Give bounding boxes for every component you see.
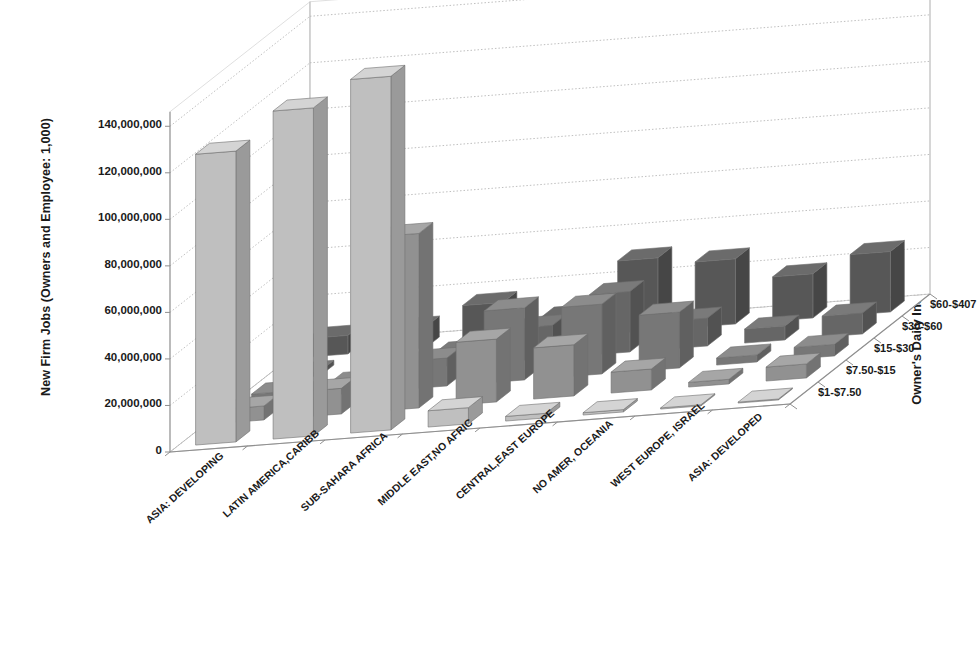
legend-item-3: $30-$60	[902, 320, 942, 332]
y-tick-label: 100,000,000	[2, 211, 162, 223]
legend-item-4: $60-$407	[930, 298, 977, 310]
bar-face	[196, 151, 236, 445]
bar-face	[735, 248, 749, 324]
y-tick-label: 120,000,000	[2, 165, 162, 177]
bar-face	[534, 345, 574, 399]
y-tick-label: 0	[2, 444, 162, 456]
y-tick-label: 140,000,000	[2, 118, 162, 130]
gridline	[165, 452, 170, 456]
bar-face	[456, 339, 496, 405]
bar-face	[419, 222, 433, 408]
legend-item-0: $1-$7.50	[818, 386, 861, 398]
gridline	[790, 404, 797, 409]
bar-face	[890, 240, 904, 311]
y-tick-label: 60,000,000	[2, 304, 162, 316]
y-tick-label: 40,000,000	[2, 351, 162, 363]
legend-item-1: $7.50-$15	[846, 364, 896, 376]
bar-face	[773, 274, 813, 321]
bar-face	[273, 108, 313, 439]
bar-face	[236, 140, 250, 442]
y-tick-label: 80,000,000	[2, 258, 162, 270]
bar-face	[679, 301, 693, 368]
bar-face	[822, 313, 862, 337]
bar-face	[611, 369, 651, 393]
bar-face	[313, 97, 327, 436]
y-tick-label: 20,000,000	[2, 397, 162, 409]
bar-face	[391, 65, 405, 430]
bar-face	[351, 76, 391, 433]
bar-face	[496, 328, 510, 402]
legend-item-2: $15-$30	[874, 342, 914, 354]
bar-face	[602, 293, 616, 374]
